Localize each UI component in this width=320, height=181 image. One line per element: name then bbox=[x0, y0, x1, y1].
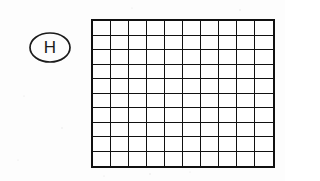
grid-cell-shaded bbox=[93, 152, 111, 167]
grid-cell-empty bbox=[201, 123, 219, 138]
grid-cell-empty bbox=[165, 36, 183, 51]
grid-cell-empty bbox=[255, 94, 273, 109]
grid-cell-shaded bbox=[93, 137, 111, 152]
grid-cell-empty bbox=[255, 79, 273, 94]
grid-cell-shaded bbox=[111, 36, 129, 51]
grid-cell-empty bbox=[147, 123, 165, 138]
grid-cell-empty bbox=[237, 108, 255, 123]
grid-cell-empty bbox=[237, 152, 255, 167]
grid-cell-container bbox=[93, 21, 273, 166]
grid-cell-empty bbox=[255, 50, 273, 65]
grid-cell-shaded bbox=[129, 21, 147, 36]
grid-cell-empty bbox=[183, 36, 201, 51]
grid-cell-shaded bbox=[129, 108, 147, 123]
grid-cell-shaded bbox=[93, 21, 111, 36]
grid-cell-shaded bbox=[111, 137, 129, 152]
grid-cell-empty bbox=[255, 152, 273, 167]
grid-cell-empty bbox=[219, 94, 237, 109]
grid-cell-empty bbox=[165, 79, 183, 94]
grid-cell-empty bbox=[255, 65, 273, 80]
figure-label-letter: H bbox=[28, 31, 72, 64]
grid-cell-shaded bbox=[129, 50, 147, 65]
grid-cell-shaded bbox=[111, 94, 129, 109]
grid-cell-empty bbox=[183, 152, 201, 167]
grid-cell-empty bbox=[147, 152, 165, 167]
area-model-grid bbox=[91, 19, 275, 168]
grid-cell-empty bbox=[183, 108, 201, 123]
grid-cell-empty bbox=[147, 21, 165, 36]
grid-cell-shaded bbox=[111, 65, 129, 80]
grid-cell-shaded bbox=[93, 65, 111, 80]
grid-cell-shaded bbox=[93, 79, 111, 94]
grid-cell-empty bbox=[219, 137, 237, 152]
grid-cell-shaded bbox=[111, 152, 129, 167]
grid-cell-empty bbox=[237, 50, 255, 65]
grid-cell-empty bbox=[255, 36, 273, 51]
figure-label-badge: H bbox=[28, 31, 72, 64]
grid-cell-empty bbox=[165, 94, 183, 109]
grid-cell-empty bbox=[183, 79, 201, 94]
grid-cell-shaded bbox=[111, 123, 129, 138]
grid-cell-empty bbox=[147, 79, 165, 94]
grid-cell-empty bbox=[165, 108, 183, 123]
grid-cell-shaded bbox=[111, 50, 129, 65]
grid-cell-empty bbox=[183, 65, 201, 80]
grid-cell-empty bbox=[201, 65, 219, 80]
grid-cell-shaded bbox=[93, 50, 111, 65]
grid-cell-shaded bbox=[111, 79, 129, 94]
grid-cell-empty bbox=[165, 123, 183, 138]
grid-cell-empty bbox=[183, 21, 201, 36]
grid-cell-empty bbox=[219, 21, 237, 36]
grid-cell-empty bbox=[147, 137, 165, 152]
grid-cell-empty bbox=[165, 137, 183, 152]
grid-cell-empty bbox=[147, 36, 165, 51]
grid-cell-empty bbox=[219, 152, 237, 167]
grid-cell-empty bbox=[237, 21, 255, 36]
grid-cell-shaded bbox=[129, 123, 147, 138]
grid-cell-shaded bbox=[93, 94, 111, 109]
grid-cell-empty bbox=[201, 50, 219, 65]
grid-cell-shaded bbox=[93, 108, 111, 123]
grid-cell-empty bbox=[201, 94, 219, 109]
grid-cell-empty bbox=[129, 137, 147, 152]
grid-cell-empty bbox=[183, 50, 201, 65]
grid-cell-shaded bbox=[93, 36, 111, 51]
grid-cell-empty bbox=[129, 152, 147, 167]
grid-cell-empty bbox=[183, 123, 201, 138]
grid-cell-empty bbox=[219, 79, 237, 94]
grid-cell-empty bbox=[201, 79, 219, 94]
grid-cell-empty bbox=[183, 94, 201, 109]
grid-cell-empty bbox=[201, 152, 219, 167]
grid-cell-empty bbox=[237, 65, 255, 80]
grid-cell-shaded bbox=[111, 108, 129, 123]
grid-cell-shaded bbox=[111, 21, 129, 36]
grid-cell-shaded bbox=[93, 123, 111, 138]
grid-cell-empty bbox=[201, 137, 219, 152]
grid-cell-shaded bbox=[129, 36, 147, 51]
grid-cell-empty bbox=[255, 21, 273, 36]
grid-cell-empty bbox=[201, 21, 219, 36]
grid-cell-shaded bbox=[129, 94, 147, 109]
grid-cell-empty bbox=[255, 137, 273, 152]
grid-cell-empty bbox=[165, 50, 183, 65]
grid-cell-empty bbox=[147, 65, 165, 80]
grid-cell-empty bbox=[237, 94, 255, 109]
grid-cell-empty bbox=[147, 50, 165, 65]
grid-cell-empty bbox=[165, 152, 183, 167]
grid-cell-empty bbox=[183, 137, 201, 152]
grid-cell-empty bbox=[165, 21, 183, 36]
grid-cell-empty bbox=[219, 65, 237, 80]
grid-cell-empty bbox=[165, 65, 183, 80]
grid-cell-empty bbox=[237, 36, 255, 51]
grid-cell-shaded bbox=[129, 79, 147, 94]
grid-cell-empty bbox=[201, 36, 219, 51]
grid-cell-empty bbox=[237, 137, 255, 152]
grid-cell-empty bbox=[147, 108, 165, 123]
grid-cell-empty bbox=[219, 50, 237, 65]
grid-cell-empty bbox=[219, 108, 237, 123]
grid-cell-empty bbox=[255, 108, 273, 123]
grid-cell-empty bbox=[219, 123, 237, 138]
grid-cell-empty bbox=[201, 108, 219, 123]
grid-cell-empty bbox=[147, 94, 165, 109]
grid-cell-empty bbox=[237, 79, 255, 94]
